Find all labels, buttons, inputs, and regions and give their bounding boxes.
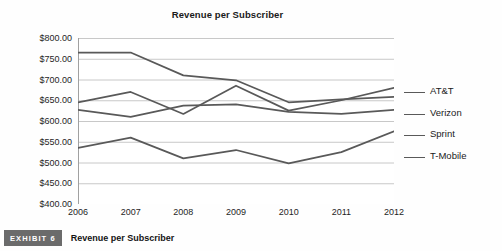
- legend-item-t-mobile[interactable]: T-Mobile: [404, 149, 500, 171]
- legend-item-label: AT&T: [430, 85, 454, 96]
- chart-legend: AT&TVerizonSprintT-Mobile: [404, 84, 500, 170]
- legend-item-label: Verizon: [430, 107, 462, 118]
- exhibit-figure-container: Revenue per Subscriber $800.00$750.00$70…: [0, 0, 502, 251]
- series-line-t-mobile: [78, 131, 394, 163]
- x-axis-tick-label: 2010: [279, 207, 299, 217]
- chart-title: Revenue per Subscriber: [60, 9, 395, 20]
- exhibit-caption-text: Revenue per Subscriber: [71, 233, 175, 243]
- y-axis-tick-labels: $800.00$750.00$700.00$650.00$600.00$550.…: [0, 38, 72, 204]
- x-axis-tick-label: 2006: [68, 207, 88, 217]
- legend-line-swatch: [404, 157, 425, 158]
- legend-line-swatch: [404, 114, 425, 115]
- series-line-at-t: [78, 53, 394, 103]
- legend-item-at-t[interactable]: AT&T: [404, 84, 500, 106]
- legend-item-label: T-Mobile: [430, 150, 466, 161]
- x-axis-tick-labels: 2006200720082009201020112012: [78, 207, 394, 223]
- y-axis-tick-label: $450.00: [0, 178, 72, 188]
- y-axis-tick-label: $700.00: [0, 75, 72, 85]
- line-chart-figure: Revenue per Subscriber $800.00$750.00$70…: [0, 0, 502, 222]
- exhibit-number-badge: EXHIBIT 6: [4, 230, 62, 246]
- chart-plot-area: [78, 38, 394, 204]
- exhibit-caption: EXHIBIT 6 Revenue per Subscriber: [0, 228, 502, 248]
- y-axis-tick-label: $500.00: [0, 158, 72, 168]
- legend-line-swatch: [404, 135, 425, 136]
- x-axis-tick-label: 2008: [173, 207, 193, 217]
- x-axis-tick-label: 2007: [121, 207, 141, 217]
- y-axis-tick-label: $600.00: [0, 116, 72, 126]
- y-axis-tick-label: $550.00: [0, 137, 72, 147]
- series-line-verizon: [78, 104, 394, 116]
- chart-plot-svg: [78, 38, 394, 204]
- y-axis-tick-label: $400.00: [0, 199, 72, 209]
- y-axis-tick-label: $650.00: [0, 95, 72, 105]
- y-axis-tick-label: $800.00: [0, 33, 72, 43]
- legend-item-sprint[interactable]: Sprint: [404, 127, 500, 149]
- x-axis-tick-label: 2012: [384, 207, 404, 217]
- x-axis-tick-label: 2009: [226, 207, 246, 217]
- legend-item-verizon[interactable]: Verizon: [404, 106, 500, 128]
- legend-item-label: Sprint: [430, 128, 455, 139]
- legend-line-swatch: [404, 92, 425, 93]
- y-axis-tick-label: $750.00: [0, 54, 72, 64]
- x-axis-tick-label: 2011: [332, 207, 351, 217]
- series-line-sprint: [78, 86, 394, 114]
